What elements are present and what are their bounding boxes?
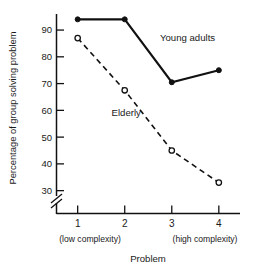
data-point-filled xyxy=(216,68,221,73)
y-tick-label: 30 xyxy=(41,185,52,196)
high-complexity-label: (high complexity) xyxy=(173,234,238,244)
chart-container: 30405060708090 1234 Young adultsElderly … xyxy=(0,0,269,270)
x-tick-label: 1 xyxy=(75,218,81,229)
data-point-filled xyxy=(169,80,174,85)
data-point-filled xyxy=(122,17,127,22)
low-complexity-label: (low complexity) xyxy=(59,234,121,244)
y-tick-label: 90 xyxy=(41,24,52,35)
data-point-open xyxy=(75,35,80,40)
data-point-filled xyxy=(75,17,80,22)
data-point-open xyxy=(169,148,174,153)
y-axis-title: Percentage of group solving problem xyxy=(7,31,18,184)
series-label-young-adults: Young adults xyxy=(160,32,215,43)
series-label-elderly: Elderly xyxy=(112,107,142,118)
line-chart: 30405060708090 1234 Young adultsElderly … xyxy=(0,0,269,270)
data-point-open xyxy=(216,180,221,185)
data-point-open xyxy=(122,88,127,93)
x-tick-label: 4 xyxy=(216,218,222,229)
x-tick-label: 3 xyxy=(169,218,175,229)
y-tick-label: 80 xyxy=(41,51,52,62)
y-tick-label: 70 xyxy=(41,78,52,89)
y-tick-label: 50 xyxy=(41,132,52,143)
y-tick-label: 40 xyxy=(41,158,52,169)
x-tick-label: 2 xyxy=(122,218,128,229)
x-axis-title: Problem xyxy=(130,253,166,264)
y-tick-label: 60 xyxy=(41,105,52,116)
chart-background xyxy=(0,0,269,270)
